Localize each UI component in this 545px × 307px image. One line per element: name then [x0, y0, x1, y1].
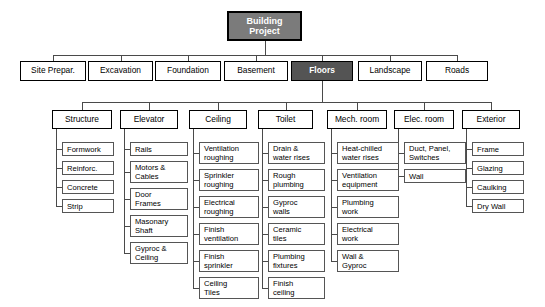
leaf-label-line-1: Tiles — [204, 289, 258, 298]
leaf-toilet-0[interactable]: Drain &water rises — [268, 142, 325, 164]
leaf-label-line-1: ceiling — [273, 289, 324, 298]
leaf-elevator-1[interactable]: Motors &Cables — [130, 161, 188, 183]
node-level3-elec-room[interactable]: Elec. room — [394, 110, 454, 129]
leaf-label-line-1: Switches — [409, 154, 465, 163]
node-level3-exterior[interactable]: Exterior — [462, 110, 520, 129]
leaf-structure-1[interactable]: Reinforc. — [62, 161, 114, 175]
node-level2-foundation[interactable]: Foundation — [155, 61, 221, 81]
leaf-elevator-2[interactable]: DoorFrames — [130, 188, 188, 210]
leaf-mech_room-0[interactable]: Heat-chilledwater rises — [337, 142, 399, 164]
leaf-toilet-3[interactable]: Ceramictiles — [268, 223, 325, 245]
leaf-ceiling-3[interactable]: Finishventilation — [199, 223, 259, 245]
connector-line — [56, 129, 57, 206]
leaf-label-line-0: Reinforc. — [67, 165, 113, 174]
node-level3-structure[interactable]: Structure — [52, 110, 112, 129]
root-label-line-1: Project — [229, 26, 300, 36]
node-level3-elevator[interactable]: Elevator — [120, 110, 178, 129]
leaf-label-line-0: Strip — [67, 203, 113, 212]
leaf-exterior-3[interactable]: Dry Wall — [472, 199, 524, 213]
leaf-label-line-0: Concrete — [67, 184, 113, 193]
connector-line — [357, 102, 358, 110]
leaf-label-line-0: Rails — [135, 146, 187, 155]
connector-line — [193, 129, 194, 288]
leaf-label-line-1: work — [342, 208, 398, 217]
connector-line — [82, 102, 83, 110]
leaf-ceiling-0[interactable]: Ventilationroughing — [199, 142, 259, 164]
leaf-structure-2[interactable]: Concrete — [62, 180, 114, 194]
leaf-label-line-0: Wall — [409, 173, 465, 182]
node-level2-excavation[interactable]: Excavation — [88, 61, 153, 81]
connector-line — [265, 41, 266, 55]
node-root: BuildingProject — [227, 11, 302, 41]
node-level2-floors[interactable]: Floors — [291, 61, 353, 81]
leaf-ceiling-2[interactable]: Electricalroughing — [199, 196, 259, 218]
leaf-label-line-1: equipment — [342, 181, 398, 190]
leaf-mech_room-1[interactable]: Ventilationequipment — [337, 169, 399, 191]
root-label-line-0: Building — [229, 16, 300, 26]
connector-line — [286, 102, 287, 110]
leaf-label-line-1: walls — [273, 208, 324, 217]
leaf-label-line-1: work — [342, 235, 398, 244]
connector-line — [149, 102, 150, 110]
connector-line — [262, 129, 263, 288]
leaf-label-line-1: roughing — [204, 181, 258, 190]
leaf-elevator-3[interactable]: MasonaryShaft — [130, 215, 188, 237]
leaf-label-line-1: tiles — [273, 235, 324, 244]
leaf-ceiling-4[interactable]: Finishsprinkler — [199, 250, 259, 272]
connector-line — [322, 81, 323, 102]
leaf-label-line-1: water rises — [342, 154, 398, 163]
node-level3-mech-room[interactable]: Mech. room — [327, 110, 387, 129]
leaf-exterior-1[interactable]: Glazing — [472, 161, 524, 175]
leaf-structure-3[interactable]: Strip — [62, 199, 114, 213]
leaf-structure-0[interactable]: Formwork — [62, 142, 114, 156]
leaf-label-line-0: Glazing — [477, 165, 523, 174]
leaf-exterior-2[interactable]: Caulking — [472, 180, 524, 194]
leaf-label-line-0: Formwork — [67, 146, 113, 155]
leaf-toilet-4[interactable]: Plumbingfixtures — [268, 250, 325, 272]
connector-line — [218, 102, 219, 110]
leaf-elevator-4[interactable]: Gyproc &Ceiling — [130, 242, 188, 264]
leaf-mech_room-3[interactable]: Electricalwork — [337, 223, 399, 245]
connector-line — [53, 55, 457, 56]
wbs-diagram: BuildingProjectSite Prepar.ExcavationFou… — [0, 0, 545, 307]
connector-line — [491, 102, 492, 110]
node-level3-toilet[interactable]: Toilet — [258, 110, 313, 129]
leaf-toilet-5[interactable]: Finishceiling — [268, 277, 325, 299]
node-level3-ceiling[interactable]: Ceiling — [189, 110, 247, 129]
leaf-label-line-1: Frames — [135, 200, 187, 209]
leaf-label-line-0: Caulking — [477, 184, 523, 193]
leaf-label-line-1: roughing — [204, 154, 258, 163]
node-level2-landscape[interactable]: Landscape — [358, 61, 422, 81]
leaf-label-line-1: Gyproc — [342, 262, 398, 271]
leaf-label-line-1: Cables — [135, 173, 187, 182]
leaf-label-line-1: Ceiling — [135, 254, 187, 263]
leaf-mech_room-4[interactable]: Wall &Gyproc — [337, 250, 399, 272]
leaf-elec_room-1[interactable]: Wall — [404, 169, 466, 183]
leaf-elec_room-0[interactable]: Duct, Panel,Switches — [404, 142, 466, 164]
leaf-label-line-1: Shaft — [135, 227, 187, 236]
leaf-label-line-1: plumbing — [273, 181, 324, 190]
leaf-toilet-1[interactable]: Roughplumbing — [268, 169, 325, 191]
node-level2-roads[interactable]: Roads — [426, 61, 488, 81]
leaf-mech_room-2[interactable]: Plumbingwork — [337, 196, 399, 218]
connector-line — [466, 129, 467, 206]
leaf-label-line-1: ventilation — [204, 235, 258, 244]
leaf-ceiling-1[interactable]: Sprinklerroughing — [199, 169, 259, 191]
connector-line — [82, 102, 491, 103]
leaf-label-line-1: water rises — [273, 154, 324, 163]
leaf-label-line-1: fixtures — [273, 262, 324, 271]
connector-line — [124, 129, 125, 253]
node-level2-basement[interactable]: Basement — [224, 61, 288, 81]
leaf-label-line-0: Dry Wall — [477, 203, 523, 212]
connector-line — [424, 102, 425, 110]
leaf-label-line-1: roughing — [204, 208, 258, 217]
leaf-elevator-0[interactable]: Rails — [130, 142, 188, 156]
leaf-label-line-1: sprinkler — [204, 262, 258, 271]
leaf-label-line-0: Frame — [477, 146, 523, 155]
leaf-ceiling-5[interactable]: CeilingTiles — [199, 277, 259, 299]
node-level2-site-prepar[interactable]: Site Prepar. — [20, 61, 86, 81]
connector-line — [331, 129, 332, 261]
leaf-toilet-2[interactable]: Gyprocwalls — [268, 196, 325, 218]
leaf-exterior-0[interactable]: Frame — [472, 142, 524, 156]
